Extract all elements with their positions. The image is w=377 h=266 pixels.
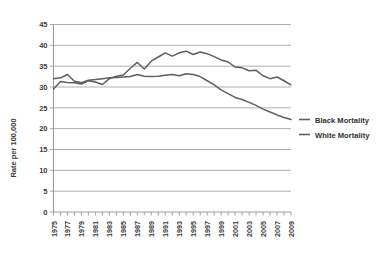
x-tick-label: 1995 — [189, 221, 198, 237]
x-tick-label: 1979 — [77, 221, 86, 237]
y-axis-title: Rate per 100,000 — [9, 118, 18, 177]
y-tick-label: 0 — [43, 208, 47, 217]
y-tick-label: 25 — [39, 104, 47, 113]
x-tick-label: 1993 — [175, 221, 184, 237]
x-tick-label: 2009 — [287, 221, 296, 237]
x-tick-label: 1991 — [161, 221, 170, 237]
line-chart: 051015202530354045 197519771979198119831… — [0, 0, 377, 266]
series-line-white-mortality — [54, 74, 292, 120]
x-tick-label: 1987 — [133, 221, 142, 237]
gridlines — [54, 25, 292, 192]
x-tick-label: 1985 — [119, 221, 128, 237]
x-tick-label: 2007 — [273, 221, 282, 237]
x-tick-label: 1999 — [217, 221, 226, 237]
y-tick-label: 40 — [39, 41, 47, 50]
legend-label-black-mortality: Black Mortality — [315, 116, 370, 125]
x-tick-label: 1983 — [105, 221, 114, 237]
x-axis-ticks: 1975197719791981198319851987198919911993… — [50, 212, 297, 237]
x-tick-label: 2001 — [231, 221, 240, 237]
data-series — [54, 51, 292, 119]
x-tick-label: 2005 — [259, 221, 268, 237]
y-tick-label: 35 — [39, 62, 47, 71]
chart-legend: Black Mortality White Mortality — [299, 116, 370, 140]
chart-figure: 051015202530354045 197519771979198119831… — [0, 0, 377, 266]
y-tick-label: 15 — [39, 145, 47, 154]
x-tick-label: 1981 — [91, 221, 100, 237]
y-tick-label: 5 — [43, 187, 47, 196]
y-tick-label: 45 — [39, 20, 47, 29]
x-tick-label: 1975 — [50, 221, 59, 237]
x-tick-label: 1997 — [203, 221, 212, 237]
y-tick-label: 10 — [39, 166, 47, 175]
legend-label-white-mortality: White Mortality — [315, 131, 370, 140]
x-tick-label: 2003 — [245, 221, 254, 237]
y-tick-label: 30 — [39, 83, 47, 92]
y-axis-ticks: 051015202530354045 — [39, 20, 53, 217]
series-line-black-mortality — [54, 51, 292, 89]
x-tick-label: 1977 — [63, 221, 72, 237]
x-tick-label: 1989 — [147, 221, 156, 237]
y-tick-label: 20 — [39, 124, 47, 133]
